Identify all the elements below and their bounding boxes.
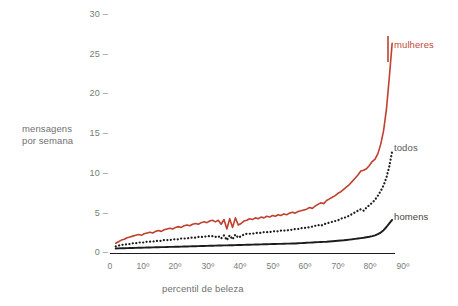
series-path-mulheres xyxy=(116,43,392,243)
series-layer xyxy=(110,36,395,254)
chart-container: mensagens por semana 30– 25– 20– 15– 10–… xyxy=(0,0,458,306)
series-path-todos xyxy=(116,151,392,246)
plot-area xyxy=(0,0,458,306)
